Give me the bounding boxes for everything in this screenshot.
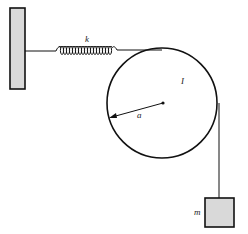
spring-constant-label: k xyxy=(85,34,90,44)
moment-of-inertia-label: I xyxy=(180,76,185,86)
mass-block xyxy=(205,198,234,227)
diagram-canvas: k I a m xyxy=(0,0,248,234)
spring xyxy=(56,47,117,55)
wall xyxy=(10,8,25,89)
radius-label: a xyxy=(137,110,142,120)
mass-label: m xyxy=(194,207,201,217)
arrowhead-icon xyxy=(109,113,117,118)
